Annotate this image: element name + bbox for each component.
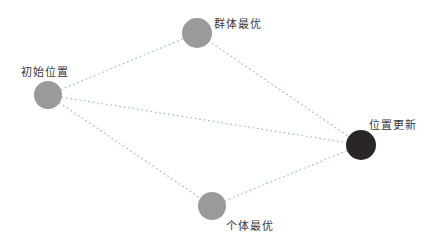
node-update xyxy=(346,130,376,160)
node-label-update: 位置更新 xyxy=(369,120,417,131)
edge-global-best-to-update xyxy=(197,33,361,145)
edge-start-to-personal-best xyxy=(48,95,212,206)
node-start xyxy=(34,81,62,109)
node-personal-best xyxy=(198,192,226,220)
edge-start-to-global-best xyxy=(48,33,197,95)
node-label-global-best: 群体最优 xyxy=(214,19,262,30)
diagram-canvas: 初始位置 群体最优 位置更新 个体最优 xyxy=(0,0,435,247)
node-global-best xyxy=(182,18,212,48)
node-label-personal-best: 个体最优 xyxy=(226,221,274,232)
edge-start-to-update xyxy=(48,95,361,145)
edges-layer xyxy=(48,33,361,206)
nodes-layer xyxy=(34,18,376,220)
node-label-start: 初始位置 xyxy=(21,67,69,78)
edge-personal-best-to-update xyxy=(212,145,361,206)
